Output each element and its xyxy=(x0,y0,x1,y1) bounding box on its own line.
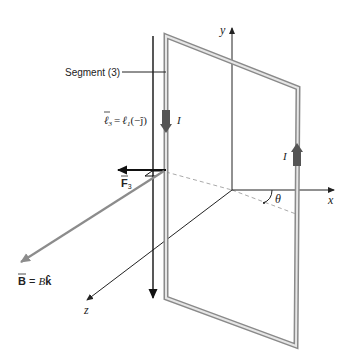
length-vector-equation: ℓ3=ℓ1(−ĵ) xyxy=(104,112,147,128)
svg-text:F3: F3 xyxy=(121,177,132,190)
svg-text:B= Bk̂: B= Bk̂ xyxy=(18,275,52,287)
current-arrow-up xyxy=(291,143,303,166)
current-loop-diagram: Segment (3) I I ℓ3=ℓ1(−ĵ) F3 B= Bk̂ x y … xyxy=(0,0,350,357)
dashed-projection-left xyxy=(166,172,232,190)
current-label-right: I xyxy=(282,150,288,162)
field-label: B= Bk̂ xyxy=(18,274,52,287)
current-arrow-down xyxy=(160,110,172,133)
theta-arc xyxy=(263,190,272,203)
z-axis-label: z xyxy=(83,303,89,317)
theta-arc-dot xyxy=(263,202,265,204)
x-axis-label: x xyxy=(327,193,334,207)
y-axis-label: y xyxy=(219,23,226,37)
magnetic-field-arrow xyxy=(21,171,164,262)
svg-text:ℓ3=ℓ1(−ĵ): ℓ3=ℓ1(−ĵ) xyxy=(104,114,147,128)
current-label-left: I xyxy=(176,114,182,126)
segment-label: Segment (3) xyxy=(65,67,120,78)
theta-label: θ xyxy=(275,192,281,206)
force-label: F3 xyxy=(121,176,132,190)
